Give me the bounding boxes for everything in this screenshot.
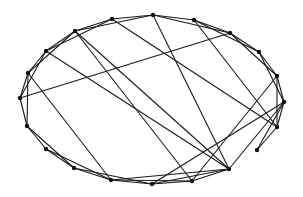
graph-edge [259, 52, 277, 76]
graph-edge [46, 51, 229, 169]
graph-node [190, 179, 194, 183]
graph-node [110, 17, 114, 21]
graph-edge [230, 33, 277, 76]
graph-edge [257, 102, 284, 150]
graph-node [151, 13, 155, 17]
graph-edge [230, 33, 259, 52]
graph-edge [75, 15, 153, 31]
graph-edge [194, 20, 259, 52]
graph-node [25, 124, 29, 128]
graph-edge [75, 31, 192, 181]
graph-node [73, 29, 77, 33]
graph-edge [28, 51, 46, 73]
graph-edge [46, 31, 75, 51]
graph-edge [192, 76, 277, 181]
graph-node [275, 125, 279, 129]
graph-edge [112, 15, 153, 19]
graph-edge [46, 149, 111, 180]
graph-diagram [0, 0, 303, 197]
graph-node [192, 18, 196, 22]
graph-node [255, 148, 259, 152]
graph-node [44, 147, 48, 151]
graph-node [282, 100, 286, 104]
graph-node [275, 74, 279, 78]
graph-edge [27, 126, 46, 149]
graph-edge [153, 15, 230, 33]
graph-edge [74, 168, 152, 184]
graph-edge [28, 31, 75, 73]
graph-edge [27, 126, 74, 168]
graph-edge [27, 73, 28, 126]
graph-edge [259, 52, 284, 102]
graph-edge [46, 149, 74, 168]
edge-layer [20, 15, 284, 184]
graph-node [72, 166, 76, 170]
graph-node [109, 178, 113, 182]
graph-edge [229, 102, 284, 169]
graph-node [150, 182, 154, 186]
graph-node [228, 31, 232, 35]
graph-edge [20, 33, 230, 98]
graph-node [44, 49, 48, 53]
graph-node [257, 50, 261, 54]
graph-edge [75, 31, 229, 169]
graph-node [26, 71, 30, 75]
graph-node [227, 167, 231, 171]
graph-edge [20, 98, 27, 126]
graph-node [18, 96, 22, 100]
